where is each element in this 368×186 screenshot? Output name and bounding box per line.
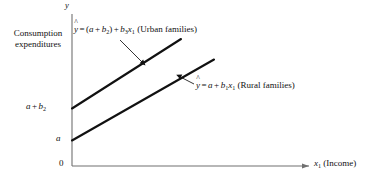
urban-intercept-subscript: 2: [43, 106, 46, 112]
urban-intercept-base-term: a: [89, 24, 94, 34]
urban-equation-annotation: ^y=(a+b2)+b3x1 (Urban families): [74, 24, 197, 36]
origin-label: 0: [59, 158, 64, 168]
y-axis-caption-line-1: Consumption: [8, 28, 68, 39]
rural-intercept-base: a: [56, 133, 61, 143]
urban-leader-line: [120, 40, 144, 64]
rural-regression-line: [72, 60, 214, 141]
y-axis-caption-line-2: expenditures: [8, 39, 68, 50]
rural-hat-mark: ^: [196, 75, 200, 83]
x-axis-name-text: (Income): [323, 158, 356, 168]
x-axis-subscript: 1: [318, 163, 321, 169]
urban-yhat: ^y: [74, 24, 78, 34]
rural-variable-subscript: 1: [232, 85, 235, 91]
urban-equals-sign: =: [78, 24, 86, 34]
rural-group-label: (Rural families): [238, 80, 295, 90]
y-axis-label: y: [65, 1, 69, 11]
urban-regression-line: [72, 39, 181, 109]
urban-inner-plus: +: [94, 24, 102, 34]
urban-intercept-base: a: [26, 101, 31, 111]
rural-intercept-base-term: a: [208, 80, 213, 90]
urban-group-label: (Urban families): [137, 24, 197, 34]
urban-variable-subscript: 1: [132, 29, 135, 35]
urban-intercept-label: a+b2: [26, 101, 46, 113]
urban-intercept-operator: +: [31, 101, 39, 111]
y-axis-caption: Consumption expenditures: [8, 28, 68, 50]
rural-intercept-label: a: [56, 133, 61, 143]
regression-figure: y Consumption expenditures 0 a+b2 a x1 (…: [0, 0, 368, 186]
x-axis-arrowhead: [302, 163, 309, 168]
rural-equals-sign: =: [200, 80, 208, 90]
rural-equation-annotation: ^y=a+b1x1 (Rural families): [196, 80, 295, 92]
x-axis-label: x1 (Income): [314, 158, 356, 170]
rural-yhat: ^y: [196, 80, 200, 90]
urban-hat-mark: ^: [74, 19, 78, 27]
rural-plus: +: [213, 80, 221, 90]
